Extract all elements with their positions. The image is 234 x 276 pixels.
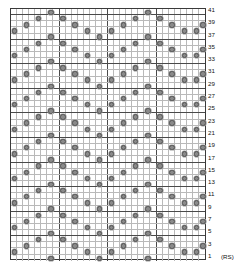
chart-cell[interactable] [199,40,205,45]
row-number-label: 15 [208,167,215,173]
chart-cell[interactable] [199,27,205,32]
chart-cell[interactable] [199,218,205,223]
chart-row[interactable] [11,255,205,261]
chart-cell[interactable] [199,113,205,118]
row-number-label: 21 [208,130,215,136]
chart-cell[interactable] [199,230,205,235]
chart-cell[interactable] [199,52,205,57]
chart-cell[interactable] [199,107,205,112]
chart-cell[interactable] [199,34,205,39]
chart-cell[interactable] [199,224,205,229]
chart-cell[interactable] [199,21,205,26]
knitting-chart: 4139373533312927252321191715131197531(RS… [0,0,234,276]
chart-cell[interactable] [199,95,205,100]
row-number-label: 17 [208,155,215,161]
chart-cell[interactable] [199,58,205,63]
chart-cell[interactable] [199,163,205,168]
row-number-label: 23 [208,118,215,124]
chart-cell[interactable] [199,101,205,106]
row-number-label: 1 [208,253,211,259]
chart-grid[interactable] [10,8,206,260]
chart-cell[interactable] [199,206,205,211]
row-number-label: 25 [208,105,215,111]
chart-cell[interactable] [199,181,205,186]
chart-cell[interactable] [199,169,205,174]
chart-cell[interactable] [199,15,205,20]
chart-cell[interactable] [199,120,205,125]
row-number-label: 7 [208,216,211,222]
row-number-label: 39 [208,19,215,25]
chart-cell[interactable] [199,187,205,192]
chart-cell[interactable] [199,64,205,69]
chart-cell[interactable] [199,126,205,131]
chart-cell[interactable] [199,46,205,51]
chart-cell[interactable] [199,193,205,198]
row-number-label: 13 [208,179,215,185]
right-side-label: (RS) [221,253,234,260]
chart-cell[interactable] [199,255,205,261]
row-number-label: 9 [208,204,211,210]
chart-cell[interactable] [199,77,205,82]
chart-cell[interactable] [199,175,205,180]
row-number-label: 3 [208,241,211,247]
row-number-label: 35 [208,44,215,50]
chart-cell[interactable] [199,236,205,241]
chart-cell[interactable] [199,132,205,137]
chart-cell[interactable] [199,144,205,149]
chart-cell[interactable] [199,9,205,14]
chart-cell[interactable] [199,156,205,161]
row-number-label: 33 [208,56,215,62]
row-number-label: 27 [208,93,215,99]
row-number-axis: 4139373533312927252321191715131197531(RS… [208,8,234,260]
chart-cell[interactable] [199,89,205,94]
chart-cell[interactable] [199,70,205,75]
row-number-label: 5 [208,228,211,234]
chart-cell[interactable] [199,138,205,143]
row-number-label: 41 [208,7,215,13]
row-number-label: 11 [208,191,214,197]
row-number-label: 19 [208,142,215,148]
chart-cell[interactable] [199,150,205,155]
chart-cell[interactable] [199,212,205,217]
chart-cell[interactable] [199,83,205,88]
row-number-label: 31 [208,68,215,74]
chart-cell[interactable] [199,242,205,247]
row-number-label: 37 [208,32,215,38]
row-number-label: 29 [208,81,215,87]
chart-cell[interactable] [199,248,205,253]
chart-cell[interactable] [199,199,205,204]
